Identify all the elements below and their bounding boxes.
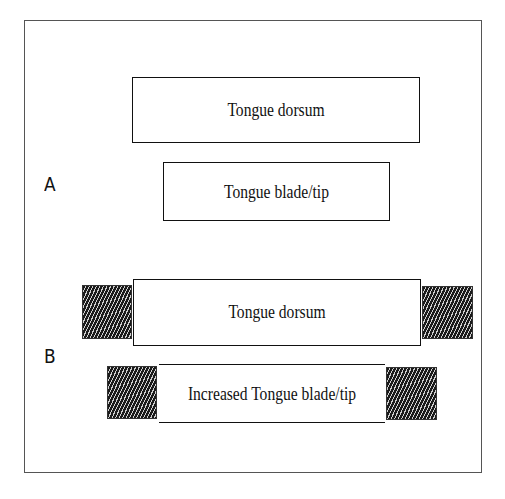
panel-b-blade-hatch-right: [386, 367, 437, 420]
panel-b-dorsum-hatch-right: [422, 286, 473, 339]
panel-label-b: B: [44, 344, 56, 368]
panel-a-dorsum-text: Tongue dorsum: [158, 99, 394, 121]
panel-b-blade-text: Increased Tongue blade/tip: [179, 383, 364, 405]
panel-b-dorsum-hatch-left: [82, 285, 132, 339]
panel-label-a: A: [44, 172, 56, 196]
panel-b-dorsum-text: Tongue dorsum: [159, 301, 395, 323]
panel-a-blade-text: Tongue blade/tip: [183, 181, 369, 203]
panel-b-blade-hatch-left: [107, 366, 157, 419]
panel-b-blade-bottom-line: [159, 422, 385, 423]
panel-b-blade-top-line: [159, 364, 385, 365]
